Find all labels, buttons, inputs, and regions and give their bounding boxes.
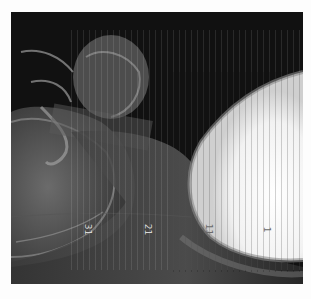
xray-image: 31 21 11 1	[11, 12, 303, 284]
marker-label-1: 1	[262, 227, 271, 233]
marker-label-21: 21	[143, 224, 152, 235]
xray-rendering	[11, 12, 303, 284]
marker-label-31: 31	[83, 224, 92, 235]
marker-label-11: 11	[204, 224, 213, 235]
